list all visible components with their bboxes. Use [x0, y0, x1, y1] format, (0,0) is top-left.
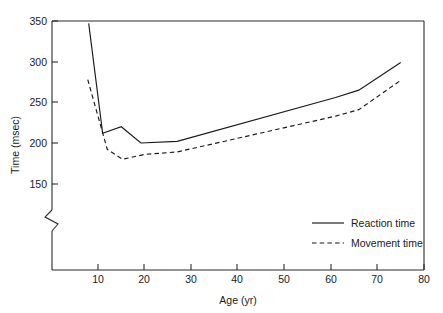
x-tick-label-40: 40 — [231, 273, 243, 285]
y-axis-break-icon — [45, 210, 58, 231]
legend-label-movement-time: Movement time — [351, 237, 423, 249]
y-tick-marks — [52, 21, 58, 184]
x-tick-label-70: 70 — [371, 273, 383, 285]
x-tick-marks — [98, 264, 424, 270]
y-tick-label-250: 250 — [29, 96, 47, 108]
x-tick-label-30: 30 — [185, 273, 197, 285]
y-tick-label-350: 350 — [29, 15, 47, 27]
series-line-reaction-time — [89, 23, 401, 143]
axis-frame — [45, 21, 424, 270]
y-axis-title: Time (msec) — [9, 116, 21, 174]
y-tick-label-150: 150 — [29, 178, 47, 190]
x-tick-label-60: 60 — [325, 273, 337, 285]
x-tick-label-20: 20 — [138, 273, 150, 285]
y-tick-label-200: 200 — [29, 137, 47, 149]
x-tick-labels: 10 20 30 40 50 60 70 80 — [92, 273, 430, 285]
chart-legend: Reaction time Movement time — [312, 217, 423, 249]
x-axis-title: Age (yr) — [219, 294, 256, 306]
chart-figure: 350 300 250 200 150 10 20 30 40 50 60 70 — [0, 0, 443, 313]
line-chart: 350 300 250 200 150 10 20 30 40 50 60 70 — [0, 0, 443, 313]
x-tick-label-10: 10 — [92, 273, 104, 285]
legend-label-reaction-time: Reaction time — [351, 217, 415, 229]
x-tick-label-80: 80 — [418, 273, 430, 285]
y-tick-label-300: 300 — [29, 56, 47, 68]
y-tick-labels: 350 300 250 200 150 — [29, 15, 47, 190]
x-tick-label-50: 50 — [278, 273, 290, 285]
